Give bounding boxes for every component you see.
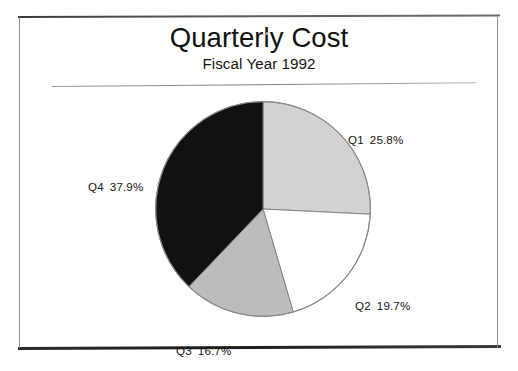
- chart-frame: Quarterly Cost Fiscal Year 1992 Q125.8% …: [18, 14, 500, 353]
- title-block: Quarterly Cost Fiscal Year 1992: [18, 24, 500, 72]
- frame-left-border: [19, 17, 20, 348]
- slice-label-q4-name: Q4: [88, 180, 104, 193]
- pie-slice-q1: [263, 102, 370, 215]
- slice-label-q1-name: Q1: [348, 133, 364, 146]
- pie-slice-group: [156, 102, 371, 317]
- slice-label-q3-value: 16.7%: [198, 344, 232, 357]
- slice-label-q1: Q125.8%: [348, 133, 403, 146]
- slice-label-q3: Q316.7%: [176, 344, 231, 357]
- slice-label-q2-value: 19.7%: [377, 299, 411, 312]
- slice-label-q4: Q437.9%: [88, 180, 143, 193]
- chart-subtitle: Fiscal Year 1992: [18, 55, 500, 72]
- pie-chart-svg: [148, 94, 378, 324]
- frame-right-border: [497, 17, 498, 348]
- title-divider-rule: [52, 82, 476, 87]
- chart-title: Quarterly Cost: [18, 24, 500, 52]
- slice-label-q1-value: 25.8%: [370, 133, 404, 146]
- pie-chart: [148, 94, 378, 324]
- slice-label-q3-name: Q3: [176, 344, 192, 357]
- scan-speck: [266, 32, 268, 35]
- frame-bottom-border: [18, 345, 501, 350]
- slice-label-q2-name: Q2: [355, 299, 371, 312]
- slice-label-q4-value: 37.9%: [110, 180, 144, 193]
- slice-label-q2: Q219.7%: [355, 299, 410, 312]
- page-root: Quarterly Cost Fiscal Year 1992 Q125.8% …: [0, 0, 518, 371]
- frame-top-border: [18, 14, 500, 18]
